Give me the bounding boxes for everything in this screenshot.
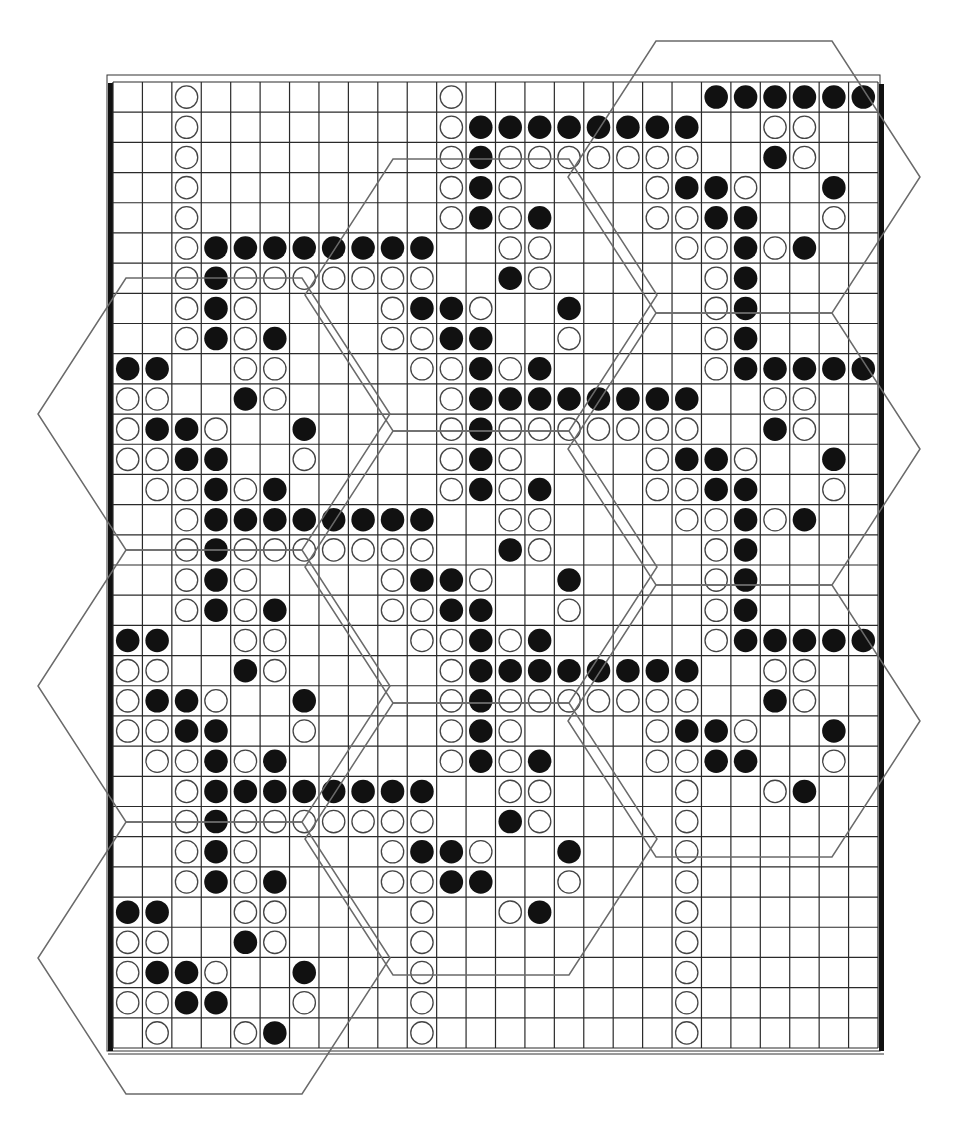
black-stone xyxy=(263,236,287,260)
black-stone xyxy=(646,659,670,683)
white-stone xyxy=(234,629,256,651)
black-stone xyxy=(440,599,464,623)
black-stone xyxy=(469,387,493,411)
white-stone xyxy=(411,327,433,349)
black-stone xyxy=(469,176,493,200)
black-stone xyxy=(322,508,346,532)
black-stone xyxy=(145,689,169,713)
black-stone xyxy=(145,629,169,653)
black-stone xyxy=(557,116,581,140)
black-stone xyxy=(145,961,169,985)
white-stone xyxy=(646,690,668,712)
black-stone xyxy=(145,900,169,924)
white-stone xyxy=(411,931,433,953)
white-stone xyxy=(646,176,668,198)
white-stone xyxy=(411,1022,433,1044)
black-stone xyxy=(528,387,552,411)
black-stone xyxy=(351,508,375,532)
white-stone xyxy=(499,207,521,229)
black-stone xyxy=(528,659,552,683)
black-stone xyxy=(175,448,199,472)
black-stone xyxy=(469,478,493,502)
black-stone xyxy=(204,448,228,472)
black-stone xyxy=(234,508,258,532)
white-stone xyxy=(352,539,374,561)
black-stone xyxy=(292,236,316,260)
white-stone xyxy=(234,599,256,621)
white-stone xyxy=(234,478,256,500)
white-stone xyxy=(528,418,550,440)
white-stone xyxy=(676,992,698,1014)
black-stone xyxy=(734,206,758,230)
white-stone xyxy=(617,418,639,440)
white-stone xyxy=(411,810,433,832)
black-stone xyxy=(410,297,434,321)
white-stone xyxy=(117,659,139,681)
white-stone xyxy=(411,992,433,1014)
black-stone xyxy=(646,116,670,140)
black-stone xyxy=(116,357,140,381)
black-stone xyxy=(557,840,581,864)
black-stone xyxy=(763,357,787,381)
black-stone xyxy=(528,900,552,924)
white-stone xyxy=(705,297,727,319)
white-stone xyxy=(146,388,168,410)
black-stone xyxy=(204,840,228,864)
black-stone xyxy=(557,297,581,321)
black-stone xyxy=(793,236,817,260)
white-stone xyxy=(117,690,139,712)
white-stone xyxy=(440,720,462,742)
black-stone xyxy=(675,719,699,743)
black-stone xyxy=(734,749,758,773)
white-stone xyxy=(293,448,315,470)
white-stone xyxy=(440,690,462,712)
white-stone xyxy=(411,267,433,289)
white-stone xyxy=(293,992,315,1014)
black-stone xyxy=(734,85,758,109)
white-stone xyxy=(117,961,139,983)
white-stone xyxy=(646,448,668,470)
black-stone xyxy=(204,568,228,592)
black-stone xyxy=(734,478,758,502)
black-stone xyxy=(822,176,846,200)
black-stone xyxy=(381,508,405,532)
black-stone xyxy=(204,599,228,623)
white-stone xyxy=(381,810,403,832)
black-stone xyxy=(440,870,464,894)
black-stone xyxy=(234,236,258,260)
white-stone xyxy=(676,478,698,500)
white-stone xyxy=(676,146,698,168)
black-stone xyxy=(734,538,758,562)
white-stone xyxy=(676,750,698,772)
white-stone xyxy=(175,297,197,319)
white-stone xyxy=(381,539,403,561)
white-stone xyxy=(558,871,580,893)
white-stone xyxy=(264,931,286,953)
black-stone xyxy=(528,206,552,230)
black-stone xyxy=(704,176,728,200)
white-stone xyxy=(676,931,698,953)
white-stone xyxy=(470,297,492,319)
black-stone xyxy=(469,146,493,170)
black-stone xyxy=(763,85,787,109)
black-stone xyxy=(175,991,199,1015)
black-stone xyxy=(498,387,522,411)
hexagon-outline xyxy=(305,703,657,975)
white-stone xyxy=(705,599,727,621)
left-thick-border xyxy=(108,83,113,1051)
black-stone xyxy=(292,961,316,985)
white-stone xyxy=(381,267,403,289)
black-stone xyxy=(175,689,199,713)
black-stone xyxy=(822,719,846,743)
black-stone xyxy=(175,417,199,441)
white-stone xyxy=(264,358,286,380)
white-stone xyxy=(528,267,550,289)
white-stone xyxy=(793,659,815,681)
white-stone xyxy=(440,86,462,108)
white-stone xyxy=(558,327,580,349)
white-stone xyxy=(175,176,197,198)
white-stone xyxy=(175,871,197,893)
white-stone xyxy=(499,478,521,500)
white-stone xyxy=(499,418,521,440)
black-stone xyxy=(351,236,375,260)
